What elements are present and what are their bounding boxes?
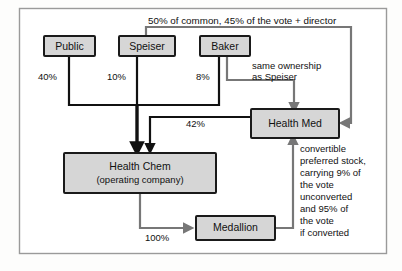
node-health-med[interactable]: Health Med [251,109,339,138]
node-baker-label: Baker [211,40,239,52]
node-public[interactable]: Public [44,36,95,56]
convertible-note-line-4: unconverted [300,191,352,202]
label-baker-note-line1: same ownership [252,60,321,71]
convertible-note-line-3: the vote [300,179,334,190]
node-medallion[interactable]: Medallion [196,216,275,240]
convertible-note-line-7: if converted [300,227,349,238]
convertible-note-line-5: and 95% of [300,203,348,214]
node-health-chem[interactable]: Health Chem (operating company) [64,153,216,193]
node-medallion-label: Medallion [213,221,258,233]
convertible-note-line-1: preferred stock, [300,155,366,166]
node-public-label: Public [55,40,84,52]
convertible-note-line-0: convertible [300,143,346,154]
node-health-chem-label-line1: Health Chem [109,160,171,172]
label-medallion-percent: 100% [145,232,170,243]
node-speiser[interactable]: Speiser [119,36,175,56]
node-health-med-label: Health Med [268,117,322,129]
ownership-diagram: Public Speiser Baker Health Med Health C… [0,0,402,271]
node-speiser-label: Speiser [129,40,165,52]
label-baker-percent: 8% [196,71,210,82]
node-baker[interactable]: Baker [200,36,250,56]
convertible-note-line-6: the vote [300,215,334,226]
label-top-note: 50% of common, 45% of the vote + directo… [148,15,337,26]
convertible-note-line-2: carrying 9% of [300,167,361,178]
node-health-chem-label-line2: (operating company) [96,174,183,185]
label-public-percent: 40% [38,71,58,82]
diagram-canvas: Public Speiser Baker Health Med Health C… [0,0,402,271]
label-health-med-percent: 42% [186,118,206,129]
label-baker-note-line2: as Speiser [252,71,297,82]
label-speiser-percent: 10% [107,71,127,82]
